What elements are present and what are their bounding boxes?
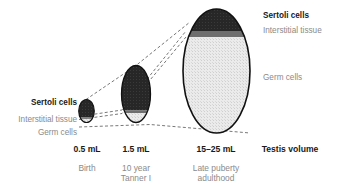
volume-label-adult: 15–25 mL (196, 145, 235, 154)
stage-label-birth-line1: Birth (78, 163, 95, 173)
volume-label-tanner1: 1.5 mL (122, 145, 149, 154)
germ-region-adult (182, 37, 252, 137)
volume-label-birth: 0.5 mL (73, 145, 100, 154)
stage-label-tanner1-line2: Tanner I (121, 173, 151, 183)
stage-label-birth: Birth (78, 163, 95, 173)
stage-label-adult-line2: adulthood (193, 173, 240, 183)
stage-label-adult: Late puberty adulthood (193, 163, 240, 184)
sertoli-region-birth (78, 98, 96, 117)
germ-region-tanner1 (120, 113, 152, 125)
testis-shape-adult (182, 7, 252, 137)
testis-growth-diagram: Sertoli cells Interstitial tissue Germ c… (0, 0, 339, 184)
testis-shape-birth (78, 98, 96, 124)
label-interstitial-tissue-left: Interstitial tissue (18, 116, 77, 124)
label-interstitial-tissue-right: Interstitial tissue (263, 27, 322, 35)
stage-label-tanner1: 10 year Tanner I (121, 163, 151, 184)
label-sertoli-cells-right: Sertoli cells (263, 12, 309, 20)
axis-label-testis-volume: Testis volume (262, 145, 319, 154)
interstitial-region-adult (182, 31, 252, 37)
stage-label-adult-line1: Late puberty (193, 163, 240, 173)
label-sertoli-cells-left: Sertoli cells (31, 99, 77, 107)
stage-label-tanner1-line1: 10 year (121, 163, 151, 173)
label-germ-cells-right: Germ cells (263, 74, 302, 82)
label-germ-cells-left: Germ cells (38, 129, 77, 137)
sertoli-region-tanner1 (120, 64, 152, 111)
